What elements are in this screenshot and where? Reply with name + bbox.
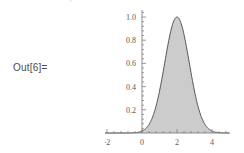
plot-fill-group <box>105 17 230 133</box>
y-tick-label: 0.2 <box>126 106 136 115</box>
y-axis-group: 0.20.40.60.81.0 <box>126 10 146 133</box>
clipped-glyph-above: + <box>68 0 73 5</box>
y-tick-label: 0.8 <box>126 36 136 45</box>
y-axis-tick-labels: 0.20.40.60.81.0 <box>126 13 136 115</box>
x-tick-label: 4 <box>210 138 214 147</box>
y-tick-label: 0.6 <box>126 59 136 68</box>
x-tick-label: 0 <box>140 138 144 147</box>
y-tick-label: 0.4 <box>126 83 136 92</box>
gaussian-plot[interactable]: 0.20.40.60.81.0 -4-2024 <box>105 2 241 152</box>
x-tick-label: -2 <box>105 138 110 147</box>
plot-container[interactable]: 0.20.40.60.81.0 -4-2024 <box>105 2 241 152</box>
y-tick-label: 1.0 <box>126 13 136 22</box>
curve-fill-area <box>105 17 230 133</box>
out-label: Out[6]= <box>13 62 47 73</box>
notebook-output-cell: + Out[6]= 0.20.40.60.81.0 -4-2024 <box>0 0 244 153</box>
x-axis-tick-labels: -4-2024 <box>105 138 214 147</box>
x-tick-label: 2 <box>175 138 179 147</box>
